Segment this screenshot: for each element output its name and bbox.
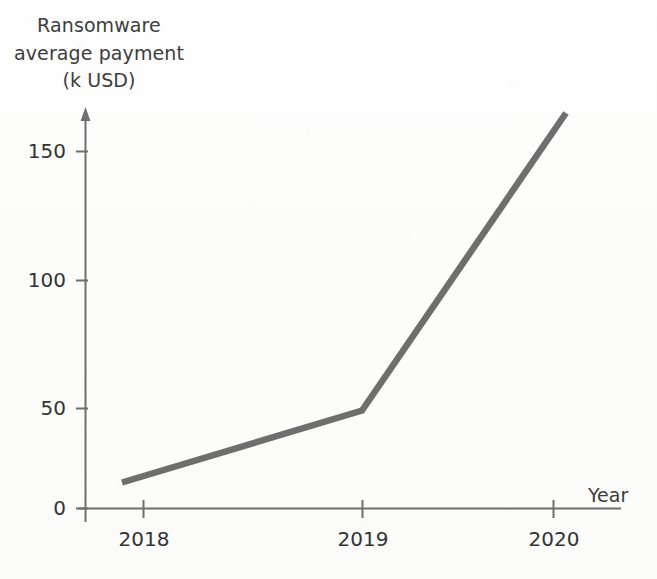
y-tick-label-50: 50 [14,396,66,420]
y-tick-label-150: 150 [14,139,66,163]
y-tick-label-100: 100 [14,268,66,292]
plot-area [0,0,657,579]
y-axis [81,107,91,522]
x-axis-label: Year [588,484,628,506]
y-axis-arrow-icon [81,107,91,121]
x-tick-label-2019: 2019 [318,527,408,551]
data-series-line [122,113,566,483]
y-tick-label-0: 0 [14,496,66,520]
x-tick-label-2018: 2018 [99,527,189,551]
chart-figure: Ransomware average payment (k USD) [0,0,657,579]
x-tick-label-2020: 2020 [509,527,599,551]
